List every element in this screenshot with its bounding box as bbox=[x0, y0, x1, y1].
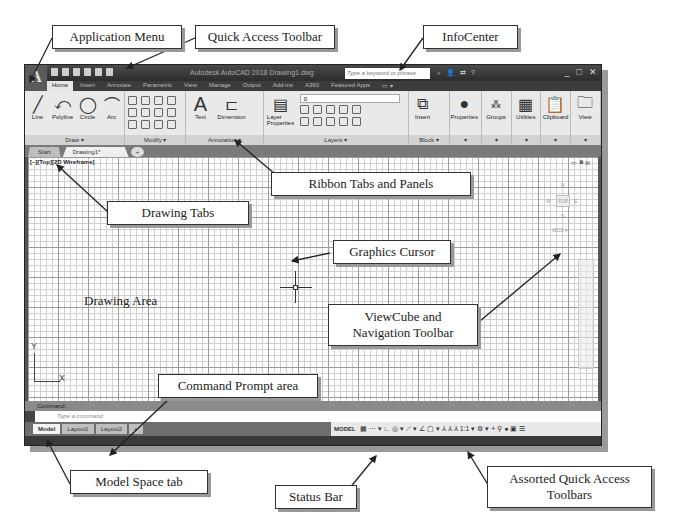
minimize-viewport-icon[interactable]: ▭ bbox=[571, 159, 577, 166]
tab-add-ins[interactable]: Add-ins bbox=[268, 81, 298, 91]
view-tool[interactable]: 🗀View bbox=[574, 94, 596, 120]
infocenter-search-input[interactable]: Type a keyword or phrase bbox=[345, 68, 430, 79]
tab-drawing1[interactable]: Drawing1* × bbox=[63, 147, 129, 157]
tab-layout2[interactable]: Layout2 bbox=[96, 424, 127, 434]
save-as-icon[interactable] bbox=[84, 68, 91, 76]
help-icon[interactable]: ? bbox=[471, 69, 475, 77]
layer-tool-icon[interactable] bbox=[326, 105, 335, 114]
tab-start[interactable]: Start bbox=[28, 147, 61, 157]
fillet-icon[interactable] bbox=[154, 108, 163, 117]
new-icon[interactable] bbox=[51, 68, 58, 76]
layer-tool-icon[interactable] bbox=[313, 117, 322, 126]
scale-icon[interactable] bbox=[141, 120, 150, 129]
new-tab-button[interactable]: + bbox=[131, 147, 145, 157]
draw-panel-title[interactable]: Draw ▾ bbox=[25, 135, 124, 145]
properties-panel-title[interactable]: ▾ bbox=[450, 135, 481, 145]
groups-tool[interactable]: ⁂Groups bbox=[485, 94, 507, 120]
close-button[interactable]: ✕ bbox=[589, 67, 597, 77]
tab-overflow[interactable]: ▭ ▾ bbox=[377, 81, 398, 91]
callout-command-prompt: Command Prompt area bbox=[158, 374, 318, 398]
explode-icon[interactable] bbox=[167, 108, 176, 117]
tab-a360[interactable]: A360 bbox=[300, 81, 324, 91]
viewport-controls[interactable]: [–][Top][2D Wireframe] bbox=[30, 159, 95, 165]
tab-output[interactable]: Output bbox=[238, 81, 266, 91]
array-icon[interactable] bbox=[154, 120, 163, 129]
tab-home[interactable]: Home bbox=[47, 81, 73, 91]
application-menu-button[interactable]: A bbox=[25, 65, 47, 91]
user-icon[interactable]: 👤 bbox=[446, 69, 455, 77]
viewcube-west[interactable]: W bbox=[546, 198, 551, 204]
layer-tool-icon[interactable] bbox=[313, 105, 322, 114]
layer-tool-icon[interactable] bbox=[339, 117, 348, 126]
insert-tool[interactable]: ⧉Insert bbox=[412, 94, 434, 120]
callout-quick-access-toolbar: Quick Access Toolbar bbox=[195, 25, 335, 49]
modify-panel-title[interactable]: Modify ▾ bbox=[125, 135, 185, 145]
viewcube[interactable]: N W TOP E S WCS ▾ bbox=[544, 177, 584, 237]
tab-featured-apps[interactable]: Featured Apps bbox=[326, 81, 375, 91]
properties-icon: ● bbox=[455, 94, 473, 114]
insert-icon: ⧉ bbox=[414, 94, 432, 114]
utilities-panel-title[interactable]: ▾ bbox=[512, 135, 541, 145]
tab-model[interactable]: Model bbox=[33, 424, 60, 434]
arc-icon: ⌒ bbox=[103, 94, 121, 114]
groups-panel-title[interactable]: ▾ bbox=[482, 135, 511, 145]
print-icon[interactable] bbox=[95, 68, 102, 76]
tab-insert[interactable]: Insert bbox=[75, 81, 100, 91]
layers-panel: ▤Layer Properties 0 Layers ▾ bbox=[264, 91, 409, 145]
command-input[interactable]: Type a command bbox=[25, 411, 601, 422]
mirror-icon[interactable] bbox=[141, 108, 150, 117]
exchange-icon[interactable]: ⇄ bbox=[460, 69, 466, 77]
view-panel-title[interactable]: ▾ bbox=[571, 135, 600, 145]
save-icon[interactable] bbox=[73, 68, 80, 76]
status-tool-icons[interactable]: ▦ ⋯ ▾ ∟ ◎ ▾ ⟋ ▾ ∠ ▢ ▾ ⅄ ⅄ ⅄ 1:1 ▾ ⚙ ▾ + … bbox=[360, 425, 526, 433]
layer-tool-icon[interactable] bbox=[300, 105, 309, 114]
utilities-tool[interactable]: ▦Utilities bbox=[515, 94, 537, 120]
properties-tool[interactable]: ●Properties bbox=[453, 94, 475, 120]
polyline-tool[interactable]: ⤺Polyline bbox=[52, 94, 73, 120]
close-viewport-icon[interactable]: ⊠ bbox=[585, 159, 590, 166]
stretch-icon[interactable] bbox=[128, 120, 137, 129]
viewcube-south[interactable]: S bbox=[561, 213, 564, 219]
minimize-button[interactable]: _ bbox=[565, 67, 570, 77]
dimension-tool[interactable]: ⊏Dimension bbox=[216, 94, 246, 120]
undo-icon[interactable] bbox=[106, 68, 113, 76]
trim-icon[interactable] bbox=[154, 96, 163, 105]
model-space-toggle[interactable]: MODEL bbox=[334, 426, 356, 432]
restore-viewport-icon[interactable]: ◙ bbox=[579, 159, 583, 166]
search-icon[interactable]: ⌕ bbox=[437, 69, 441, 77]
text-tool[interactable]: AText bbox=[189, 94, 211, 120]
layer-properties-tool[interactable]: ▤Layer Properties bbox=[267, 94, 295, 126]
layer-tool-icon[interactable] bbox=[352, 105, 361, 114]
maximize-button[interactable]: □ bbox=[577, 67, 582, 77]
tab-manage[interactable]: Manage bbox=[204, 81, 236, 91]
add-layout-button[interactable]: + bbox=[129, 424, 143, 434]
viewcube-north[interactable]: N bbox=[561, 182, 565, 188]
rotate-icon[interactable] bbox=[141, 96, 150, 105]
open-icon[interactable] bbox=[62, 68, 69, 76]
layer-tool-icon[interactable] bbox=[352, 117, 361, 126]
tab-annotate[interactable]: Annotate bbox=[102, 81, 136, 91]
navigation-bar[interactable] bbox=[578, 259, 594, 369]
line-tool[interactable]: ╱Line bbox=[28, 94, 47, 120]
layer-tool-icon[interactable] bbox=[326, 117, 335, 126]
tab-layout1[interactable]: Layout1 bbox=[62, 424, 93, 434]
erase-icon[interactable] bbox=[167, 96, 176, 105]
wcs-menu[interactable]: WCS ▾ bbox=[552, 227, 568, 233]
annotation-panel-title[interactable]: Annotation ▾ bbox=[186, 135, 262, 145]
layer-tool-icon[interactable] bbox=[339, 105, 348, 114]
tab-parametric[interactable]: Parametric bbox=[138, 81, 177, 91]
layer-dropdown[interactable]: 0 bbox=[300, 94, 400, 103]
circle-tool[interactable]: ◯Circle bbox=[78, 94, 97, 120]
move-icon[interactable] bbox=[128, 96, 137, 105]
viewcube-east[interactable]: E bbox=[574, 198, 577, 204]
clipboard-panel-title[interactable]: ▾ bbox=[541, 135, 570, 145]
layers-panel-title[interactable]: Layers ▾ bbox=[264, 135, 408, 145]
arc-tool[interactable]: ⌒Arc bbox=[102, 94, 121, 120]
layer-tool-icon[interactable] bbox=[300, 117, 309, 126]
tab-view[interactable]: View bbox=[179, 81, 202, 91]
copy-icon[interactable] bbox=[128, 108, 137, 117]
offset-icon[interactable] bbox=[167, 120, 176, 129]
viewcube-top-face[interactable]: TOP bbox=[556, 195, 570, 207]
block-panel-title[interactable]: Block ▾ bbox=[409, 135, 450, 145]
clipboard-tool[interactable]: 📋Clipboard bbox=[544, 94, 566, 120]
